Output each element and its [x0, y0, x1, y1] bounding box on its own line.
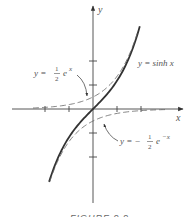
svg-text:e: e: [63, 68, 67, 78]
svg-text:1: 1: [55, 65, 59, 73]
annotation-arrow-neg-half-exp: [104, 124, 118, 141]
curves: [33, 26, 165, 182]
annotation-arrow-half-exp: [77, 75, 87, 96]
half-exp-curve: [33, 33, 137, 108]
label-sinh: y = sinh x: [137, 58, 174, 68]
svg-text:2: 2: [148, 143, 152, 151]
sinh-figure: y x y = 1 2 e x y = sinh x y = − 1 2 e −…: [0, 0, 187, 217]
svg-text:y =: y =: [33, 68, 46, 78]
svg-text:2: 2: [55, 75, 59, 83]
y-axis-label: y: [97, 4, 103, 15]
svg-text:x: x: [68, 65, 73, 73]
svg-text:−x: −x: [162, 133, 171, 141]
figure-caption: FIGURE 9.9: [70, 213, 129, 217]
x-axis-label: x: [175, 112, 181, 123]
sinh-curve: [49, 26, 140, 182]
label-neg-half-exp: y = − 1 2 e −x: [119, 133, 171, 151]
label-half-exp: y = 1 2 e x: [33, 65, 73, 83]
svg-text:1: 1: [148, 133, 152, 141]
svg-text:y = −: y = −: [119, 136, 141, 146]
svg-text:e: e: [156, 136, 160, 146]
